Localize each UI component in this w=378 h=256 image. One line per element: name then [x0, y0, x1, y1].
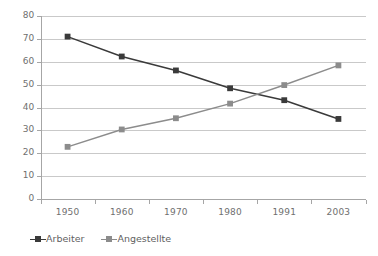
data-point-arbeiter-2003: [336, 116, 342, 122]
y-axis-label-70: 70: [23, 34, 35, 43]
legend-label: Arbeiter: [46, 234, 84, 244]
data-point-arbeiter-1980: [227, 85, 233, 91]
legend-marker-square-icon: [30, 235, 46, 244]
data-point-arbeiter-1960: [119, 54, 125, 60]
legend-item-arbeiter[interactable]: Arbeiter: [30, 234, 84, 244]
series-line-angestellte: [68, 65, 339, 146]
legend-square-swatch: [106, 236, 112, 242]
data-point-angestellte-1970: [173, 115, 179, 121]
x-axis-label-2003: 2003: [311, 208, 365, 217]
y-axis-label-50: 50: [23, 80, 35, 89]
data-point-arbeiter-1950: [65, 34, 71, 40]
y-axis-label-40: 40: [23, 103, 35, 112]
y-axis-label-80: 80: [23, 11, 35, 20]
x-axis-label-1980: 1980: [203, 208, 257, 217]
y-axis-label-20: 20: [23, 148, 35, 157]
chart-canvas: [0, 0, 378, 256]
data-point-angestellte-2003: [336, 63, 342, 69]
data-point-angestellte-1950: [65, 144, 71, 150]
y-axis-tick-marks: [37, 17, 41, 200]
chart-legend: ArbeiterAngestellte: [30, 234, 171, 244]
data-point-angestellte-1960: [119, 127, 125, 133]
x-axis-label-1960: 1960: [95, 208, 149, 217]
series-arbeiter: [65, 34, 342, 122]
y-axis-label-10: 10: [23, 171, 35, 180]
data-point-angestellte-1980: [227, 101, 233, 107]
data-point-arbeiter-1991: [281, 97, 287, 103]
legend-marker-square-icon: [101, 235, 117, 244]
data-point-arbeiter-1970: [173, 68, 179, 74]
y-axis-label-60: 60: [23, 57, 35, 66]
line-chart: 01020304050607080 1950196019701980199120…: [0, 0, 378, 256]
data-point-angestellte-1991: [281, 82, 287, 88]
series-layer: [65, 34, 342, 150]
legend-item-angestellte[interactable]: Angestellte: [101, 234, 171, 244]
legend-label: Angestellte: [117, 234, 171, 244]
x-axis-tick-marks: [41, 200, 366, 204]
x-axis-label-1991: 1991: [257, 208, 311, 217]
y-axis-label-0: 0: [29, 194, 35, 203]
legend-square-swatch: [35, 236, 41, 242]
series-line-arbeiter: [68, 37, 339, 119]
x-axis-label-1970: 1970: [149, 208, 203, 217]
y-axis-label-30: 30: [23, 125, 35, 134]
x-axis-label-1950: 1950: [41, 208, 95, 217]
